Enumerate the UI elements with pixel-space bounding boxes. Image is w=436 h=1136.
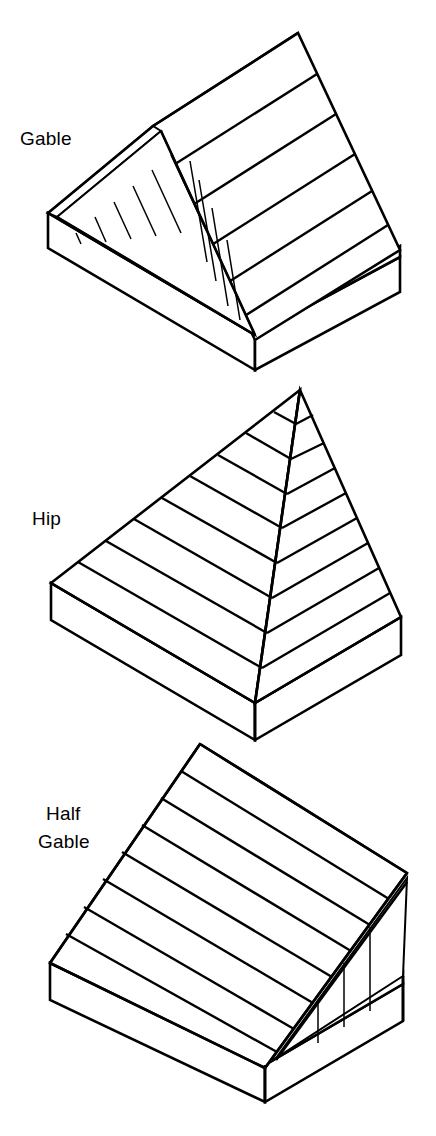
half-gable-label-line2: Gable [38, 831, 90, 852]
half-gable-diagram: Half Gable [38, 744, 407, 1102]
roof-types-diagram: Gable [0, 0, 436, 1136]
hip-label: Hip [32, 508, 61, 529]
gable-label: Gable [20, 128, 72, 149]
roof-types-figure: Gable [0, 0, 436, 1136]
hip-diagram: Hip [32, 390, 401, 740]
half-gable-label-line1: Half [46, 803, 81, 824]
gable-diagram: Gable [20, 33, 400, 370]
